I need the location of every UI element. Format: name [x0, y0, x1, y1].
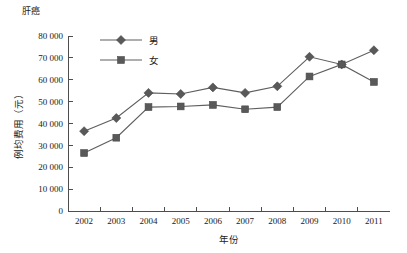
- x-tick-label: 2005: [172, 216, 191, 226]
- y-tick-label: 40 000: [38, 119, 63, 129]
- y-tick-label: 70 000: [38, 53, 63, 63]
- data-point-marker: [242, 106, 249, 113]
- y-tick-label: 80 000: [38, 31, 63, 41]
- y-axis-tick-labels: 010 00020 00030 00040 00050 00060 00070 …: [38, 31, 63, 216]
- x-tick-label: 2006: [204, 216, 223, 226]
- legend-swatch-marker: [117, 36, 126, 45]
- x-tick-label: 2003: [107, 216, 126, 226]
- legend-label: 男: [149, 36, 159, 46]
- chart-legend: 男女: [100, 36, 159, 66]
- data-point-marker: [241, 88, 250, 97]
- data-point-marker: [176, 89, 185, 98]
- x-tick-label: 2010: [333, 216, 352, 226]
- data-point-marker: [177, 103, 184, 110]
- data-point-marker: [208, 83, 217, 92]
- y-tick-label: 60 000: [38, 75, 63, 85]
- x-axis-tick-labels: 2002200320042005200620072008200920102011: [75, 216, 383, 226]
- x-tick-label: 2011: [365, 216, 383, 226]
- x-axis-tick-marks: [100, 207, 358, 212]
- x-tick-label: 2008: [268, 216, 287, 226]
- chart-figure: 肝癌 010 00020 00030 00040 00050 00060 000…: [0, 0, 407, 253]
- legend-label: 女: [149, 55, 159, 66]
- y-axis-title: 例均费用（元）: [13, 89, 24, 159]
- x-tick-label: 2004: [140, 216, 159, 226]
- data-point-marker: [371, 79, 378, 86]
- data-point-marker: [369, 46, 378, 55]
- data-point-marker: [210, 102, 217, 109]
- data-point-marker: [306, 73, 313, 80]
- y-axis-tick-marks: [69, 36, 73, 189]
- data-point-marker: [274, 104, 281, 111]
- series-2: [81, 61, 378, 156]
- series-line: [84, 50, 374, 131]
- y-tick-label: 50 000: [38, 97, 63, 107]
- data-point-marker: [338, 61, 345, 68]
- x-tick-label: 2007: [236, 216, 255, 226]
- data-point-marker: [113, 134, 120, 141]
- x-tick-label: 2009: [301, 216, 320, 226]
- data-point-marker: [81, 150, 88, 157]
- data-point-marker: [145, 104, 152, 111]
- y-tick-label: 10 000: [38, 184, 63, 194]
- y-tick-label: 0: [59, 206, 64, 216]
- x-axis-title: 年份: [219, 234, 239, 245]
- line-chart-plot: 010 00020 00030 00040 00050 00060 00070 …: [0, 0, 407, 253]
- y-tick-label: 30 000: [38, 141, 63, 151]
- x-tick-label: 2002: [75, 216, 93, 226]
- legend-swatch-marker: [118, 57, 125, 64]
- data-point-marker: [80, 127, 89, 136]
- y-tick-label: 20 000: [38, 162, 63, 172]
